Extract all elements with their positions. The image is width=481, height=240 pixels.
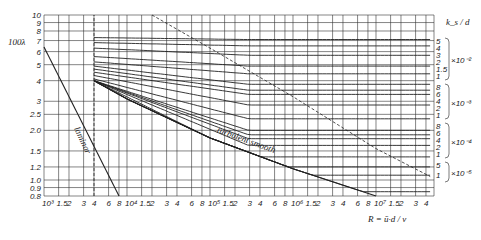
turbulent-smooth-label: turbulent smooth	[216, 125, 277, 156]
moody-diagram: 10³1.52346810⁴1.52346810⁵1.52346810⁶1.52…	[0, 0, 481, 240]
x-tick-label: 4	[424, 199, 429, 208]
x-tick-label: 10⁷	[374, 199, 387, 208]
y-axis-label: 100λ	[8, 37, 26, 47]
multiplier-label: ×10⁻³	[451, 99, 472, 108]
x-tick-label: 3	[248, 199, 253, 208]
group-brace	[445, 123, 449, 158]
y-tick-label: 2.0	[29, 126, 42, 135]
x-tick-label: 4	[341, 199, 346, 208]
x-tick-label: 4	[92, 199, 97, 208]
y-tick-label: 8	[37, 27, 42, 36]
x-tick-label: 2	[398, 199, 404, 208]
y-tick-label: 1.5	[30, 147, 42, 156]
x-tick-label: 8	[283, 199, 288, 208]
x-tick-label: 6	[190, 199, 195, 208]
x-tick-label: 10⁶	[291, 199, 304, 208]
x-axis-label: R = ū·d / ν	[367, 214, 406, 224]
y-tick-label: 3	[37, 97, 42, 106]
x-tick-label: 3	[165, 199, 170, 208]
right-tick-label: 1	[436, 150, 440, 159]
x-tick-label: 3	[82, 199, 87, 208]
x-tick-label: 2	[232, 199, 238, 208]
y-tick-label: 5	[37, 61, 42, 70]
laminar-re--line	[44, 47, 119, 196]
roughness-curve	[94, 72, 430, 94]
y-tick-label: 1.2	[30, 163, 42, 172]
roughness-curve	[94, 81, 430, 135]
multiplier-label: ×10⁻²	[451, 56, 472, 65]
roughness-curve	[94, 81, 430, 176]
y-tick-label: 6	[37, 48, 42, 57]
x-tick-label: 4	[258, 199, 263, 208]
x-tick-label: 6	[356, 199, 361, 208]
x-tick-label: 8	[117, 199, 122, 208]
roughness-curve	[94, 66, 430, 84]
roughness-curve	[94, 38, 430, 40]
multiplier-label: ×10⁻⁵	[451, 169, 473, 178]
x-tick-label: 10⁵	[208, 199, 221, 208]
y-tick-label: 0.8	[30, 192, 42, 201]
roughness-curve	[94, 43, 430, 46]
y-axis-ticks: 1098765432.52.01.51.21.00.90.8	[29, 11, 42, 201]
roughness-curve	[94, 81, 430, 167]
chart-svg: 10³1.52346810⁴1.52346810⁵1.52346810⁶1.52…	[0, 0, 481, 240]
right-tick-label: 5	[436, 161, 441, 170]
x-tick-label: 6	[107, 199, 112, 208]
y-tick-label: 4	[37, 77, 42, 86]
x-tick-label: 10⁴	[125, 199, 138, 208]
right-axis-title: k_s / d	[446, 17, 470, 27]
x-tick-label: 2	[315, 199, 321, 208]
right-tick-label: 1	[436, 111, 440, 120]
x-tick-label: 3	[331, 199, 336, 208]
x-tick-label: 3	[414, 199, 419, 208]
x-axis-ticks: 10³1.52346810⁴1.52346810⁵1.52346810⁶1.52…	[42, 199, 429, 208]
x-tick-label: 4	[175, 199, 180, 208]
multiplier-label: ×10⁻⁴	[451, 138, 473, 147]
x-tick-label: 2	[149, 199, 155, 208]
right-tick-label: 1	[436, 171, 440, 180]
x-tick-label: 8	[366, 199, 371, 208]
y-tick-label: 2.5	[29, 110, 42, 119]
x-tick-label: 10³	[42, 199, 54, 208]
y-tick-label: 7	[37, 37, 42, 46]
right-axis-ks-d: k_s / d54321.51×10⁻²86421×10⁻³86421×10⁻⁴…	[435, 17, 473, 182]
curves	[44, 15, 430, 196]
x-tick-label: 2	[66, 199, 72, 208]
x-tick-label: 8	[200, 199, 205, 208]
right-tick-label: 1	[436, 72, 440, 81]
group-brace	[445, 84, 449, 119]
group-brace	[445, 162, 449, 182]
grid-lines	[44, 15, 434, 196]
x-tick-label: 6	[273, 199, 278, 208]
